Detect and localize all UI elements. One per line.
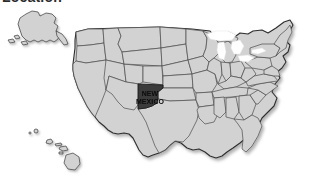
state-oregon	[76, 43, 106, 63]
hawaii-island-hawaii	[64, 153, 80, 170]
contiguous-us-group: NEW MEXICO	[73, 20, 293, 158]
new-mexico-label-line2: MEXICO	[136, 98, 165, 105]
alaska-aleutian-3	[21, 41, 28, 45]
state-montana	[118, 27, 161, 52]
hawaii-island-molokai	[55, 143, 62, 146]
hawaii-island-oahu	[46, 139, 53, 144]
alaska-aleutian-2	[8, 39, 15, 43]
page-title: Location	[2, 0, 62, 5]
state-colorado	[143, 66, 163, 85]
state-arkansas	[196, 92, 214, 107]
state-utah	[124, 64, 143, 84]
heading-clip: Location	[0, 0, 314, 6]
hawaii-island-kahoolawe	[59, 152, 63, 154]
hawaii-island-niihau	[29, 132, 31, 134]
state-alaska	[18, 11, 60, 42]
us-states-map: NEW MEXICO	[0, 0, 314, 183]
state-kansas	[163, 74, 193, 88]
lake-superior	[207, 31, 236, 41]
hawaii-inset	[29, 129, 80, 170]
alaska-aleutian-1	[14, 35, 20, 39]
hawaii-island-kauai	[34, 129, 38, 133]
new-mexico-label-line1: NEW	[142, 90, 159, 97]
hawaii-island-maui	[59, 146, 68, 151]
location-map-figure: Location	[0, 0, 314, 183]
alaska-inset	[8, 11, 68, 45]
